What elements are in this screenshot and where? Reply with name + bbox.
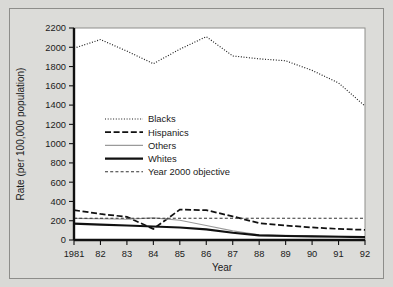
x-axis-tick-label: 82 <box>95 249 105 259</box>
y-axis-tick-label: 800 <box>50 158 66 168</box>
x-axis-tick-label: 86 <box>201 249 211 259</box>
line-chart: 0200400600800100012001400160018002000220… <box>0 0 393 287</box>
y-axis-tick-label: 1800 <box>45 62 66 72</box>
chart-plot-area: 0200400600800100012001400160018002000220… <box>0 0 393 287</box>
x-axis-title: Year <box>212 262 233 273</box>
y-axis-tick-label: 1000 <box>45 139 66 149</box>
x-axis-tick-labels: 19818283848586878889909192 <box>64 249 371 259</box>
x-axis-tick-label: 84 <box>148 249 158 259</box>
y-axis-tick-label: 2000 <box>45 43 66 53</box>
x-axis-tick-label: 90 <box>307 249 317 259</box>
x-axis-tick-label: 89 <box>280 249 290 259</box>
y-axis-tick-label: 200 <box>50 216 66 226</box>
x-axis-tick-label: 83 <box>122 249 132 259</box>
plot-background <box>74 28 365 240</box>
x-axis-tick-label: 92 <box>360 249 370 259</box>
y-axis-tick-label: 1600 <box>45 81 66 91</box>
legend-label-whites: Whites <box>148 153 177 164</box>
x-axis-tick-label: 87 <box>228 249 238 259</box>
legend-label-blacks: Blacks <box>148 113 176 124</box>
y-axis-tick-label: 600 <box>50 178 66 188</box>
y-axis-tick-label: 400 <box>50 197 66 207</box>
legend-label-hispanics: Hispanics <box>148 127 189 138</box>
legend-label-others: Others <box>148 140 176 151</box>
y-axis-tick-labels: 0200400600800100012001400160018002000220… <box>45 23 66 245</box>
legend-label-year-2000-objective: Year 2000 objective <box>148 166 230 177</box>
y-axis-tick-label: 1400 <box>45 100 66 110</box>
x-axis-tick-label: 91 <box>333 249 343 259</box>
figure-container: 0200400600800100012001400160018002000220… <box>0 0 393 287</box>
y-axis-tick-label: 2200 <box>45 23 66 33</box>
y-axis-tick-label: 0 <box>61 235 66 245</box>
y-axis-title: Rate (per 100,000 population) <box>15 68 26 201</box>
x-axis-tick-label: 1981 <box>64 249 85 259</box>
x-axis-tick-label: 85 <box>175 249 185 259</box>
y-axis-tick-label: 1200 <box>45 120 66 130</box>
x-axis-tick-label: 88 <box>254 249 264 259</box>
